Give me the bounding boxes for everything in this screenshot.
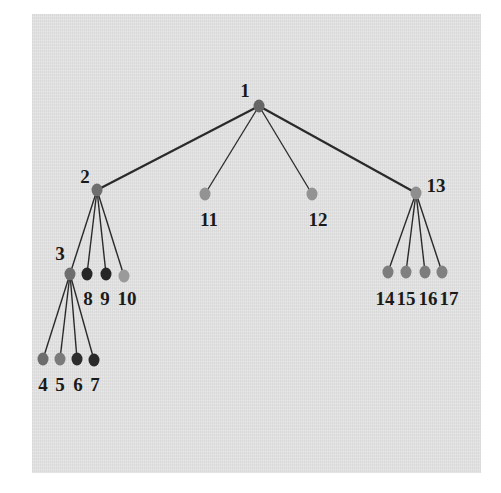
- node-label-9: 9: [100, 288, 110, 309]
- node-label-16: 16: [419, 288, 438, 309]
- node-3: [65, 268, 76, 281]
- edge-13-14: [388, 193, 416, 272]
- node-label-11: 11: [200, 209, 218, 230]
- tree-diagram: 1234567891011121314151617: [0, 0, 501, 493]
- node-4: [38, 353, 49, 366]
- node-label-1: 1: [240, 80, 250, 101]
- node-12: [307, 188, 318, 201]
- node-2: [92, 184, 103, 197]
- node-10: [119, 270, 130, 283]
- node-11: [200, 188, 211, 201]
- edge-1-13: [259, 106, 416, 193]
- edge-13-15: [406, 193, 416, 272]
- node-label-15: 15: [397, 288, 416, 309]
- node-7: [89, 354, 100, 367]
- edge-1-12: [259, 106, 312, 194]
- node-label-3: 3: [55, 243, 65, 264]
- node-8: [82, 268, 93, 281]
- node-16: [420, 266, 431, 279]
- edge-2-3: [70, 190, 97, 274]
- node-label-13: 13: [427, 175, 446, 196]
- node-label-10: 10: [118, 288, 137, 309]
- node-1: [254, 100, 265, 113]
- tree-edges: [43, 106, 442, 360]
- node-label-8: 8: [83, 288, 93, 309]
- node-label-6: 6: [73, 374, 83, 395]
- node-label-14: 14: [376, 288, 396, 309]
- edge-3-4: [43, 274, 70, 359]
- node-14: [383, 266, 394, 279]
- node-5: [55, 353, 66, 366]
- node-label-5: 5: [55, 374, 65, 395]
- tree-nodes: [38, 100, 448, 367]
- node-label-4: 4: [38, 374, 48, 395]
- edge-3-5: [60, 274, 70, 359]
- node-label-17: 17: [440, 288, 460, 309]
- node-label-12: 12: [309, 209, 328, 230]
- tree-labels: 1234567891011121314151617: [38, 80, 459, 395]
- node-15: [401, 266, 412, 279]
- node-label-2: 2: [80, 166, 90, 187]
- node-6: [72, 353, 83, 366]
- node-13: [411, 187, 422, 200]
- edge-1-2: [97, 106, 259, 190]
- edge-2-8: [87, 190, 97, 274]
- node-label-7: 7: [90, 374, 100, 395]
- node-17: [437, 266, 448, 279]
- node-9: [101, 268, 112, 281]
